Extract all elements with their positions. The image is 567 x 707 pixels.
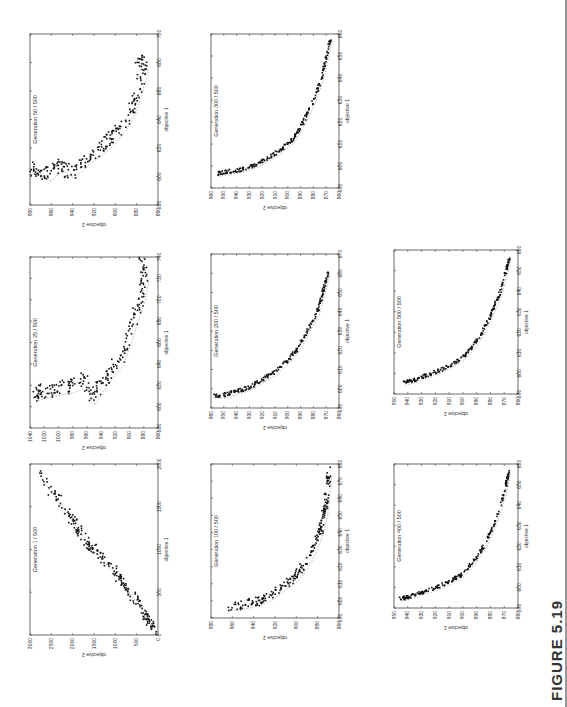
svg-text:objective 1: objective 1: [344, 319, 350, 343]
svg-text:1040: 1040: [27, 431, 33, 442]
svg-text:650: 650: [337, 288, 343, 297]
svg-text:880: 880: [487, 397, 493, 406]
plot-generation-500: Generation 500 / 50086087088089090091092…: [386, 248, 532, 416]
svg-text:660: 660: [156, 87, 162, 96]
svg-text:600: 600: [516, 583, 522, 592]
svg-text:910: 910: [446, 397, 452, 406]
svg-text:600: 600: [156, 172, 162, 181]
svg-text:590: 590: [516, 390, 522, 399]
svg-text:620: 620: [156, 144, 162, 153]
svg-text:880: 880: [133, 208, 139, 217]
svg-text:940: 940: [233, 411, 239, 420]
svg-text:660: 660: [156, 338, 162, 347]
svg-text:900: 900: [284, 411, 290, 420]
svg-text:630: 630: [337, 96, 343, 105]
svg-text:720: 720: [156, 274, 162, 283]
svg-text:920: 920: [259, 191, 265, 200]
svg-text:700: 700: [156, 30, 162, 39]
svg-text:620: 620: [516, 542, 522, 551]
svg-text:2000: 2000: [69, 638, 75, 649]
svg-text:620: 620: [516, 328, 522, 337]
svg-text:620: 620: [337, 118, 343, 127]
svg-text:920: 920: [432, 611, 438, 620]
svg-text:650: 650: [516, 480, 522, 489]
plot-title: Generation 25 / 500: [32, 318, 38, 367]
svg-text:600: 600: [337, 384, 343, 393]
svg-text:890: 890: [297, 411, 303, 420]
svg-text:objective 2: objective 2: [444, 411, 468, 417]
plot-title: Generation 100 / 500: [213, 515, 219, 567]
svg-text:objective 1: objective 1: [523, 310, 529, 334]
svg-text:940: 940: [404, 397, 410, 406]
plot-generation-25: Generation 25 / 500860880900920940960980…: [22, 255, 172, 450]
plot-generation-200: Generation 200 / 50086087088089090091092…: [203, 252, 353, 430]
svg-text:660: 660: [516, 460, 522, 469]
svg-text:500: 500: [133, 638, 139, 647]
svg-text:670: 670: [337, 250, 343, 259]
svg-text:640: 640: [337, 307, 343, 316]
svg-text:870: 870: [501, 611, 507, 620]
svg-text:3000: 3000: [27, 638, 33, 649]
svg-text:1000: 1000: [156, 544, 162, 555]
plot-title: Generation 300 / 500: [213, 85, 219, 137]
svg-text:950: 950: [220, 411, 226, 420]
plot-generation-50: Generation 50 / 500860880900920940960980…: [22, 32, 172, 227]
plot-title: Generation 200 / 500: [213, 305, 219, 357]
svg-text:880: 880: [310, 411, 316, 420]
svg-text:0: 0: [155, 638, 161, 641]
plot-title: Generation 400 / 500: [396, 510, 402, 562]
svg-text:640: 640: [337, 74, 343, 83]
svg-text:590: 590: [337, 404, 343, 413]
svg-text:890: 890: [473, 611, 479, 620]
svg-text:objective 1: objective 1: [163, 537, 169, 561]
svg-text:objective 2: objective 2: [82, 652, 106, 658]
svg-text:910: 910: [446, 611, 452, 620]
plot-title: Generation 50 / 500: [32, 95, 38, 144]
svg-text:940: 940: [69, 208, 75, 217]
svg-text:880: 880: [487, 611, 493, 620]
svg-text:objective 2: objective 2: [82, 222, 106, 228]
svg-text:1020: 1020: [41, 431, 47, 442]
svg-text:objective 1: objective 1: [163, 330, 169, 354]
svg-text:930: 930: [246, 191, 252, 200]
svg-text:620: 620: [337, 562, 343, 571]
svg-text:objective 1: objective 1: [163, 107, 169, 131]
svg-text:590: 590: [337, 614, 343, 623]
svg-text:660: 660: [516, 246, 522, 255]
svg-text:960: 960: [229, 621, 235, 630]
svg-text:610: 610: [337, 365, 343, 374]
svg-text:500: 500: [156, 588, 162, 597]
svg-text:1500: 1500: [91, 638, 97, 649]
plot-generation-100: Generation 100 / 50086088090092094096098…: [203, 462, 353, 640]
svg-text:940: 940: [250, 621, 256, 630]
svg-text:objective 2: objective 2: [263, 205, 287, 211]
svg-text:910: 910: [272, 411, 278, 420]
svg-text:920: 920: [259, 411, 265, 420]
svg-text:740: 740: [156, 253, 162, 262]
svg-text:650: 650: [337, 52, 343, 61]
svg-text:920: 920: [91, 208, 97, 217]
plot-generation-400: Generation 400 / 50086087088089090091092…: [386, 462, 532, 630]
svg-text:950: 950: [220, 191, 226, 200]
svg-text:680: 680: [156, 317, 162, 326]
svg-text:870: 870: [323, 411, 329, 420]
svg-text:680: 680: [156, 58, 162, 67]
svg-text:600: 600: [337, 596, 343, 605]
svg-text:600: 600: [516, 369, 522, 378]
svg-text:610: 610: [516, 348, 522, 357]
svg-text:610: 610: [337, 140, 343, 149]
svg-text:650: 650: [337, 511, 343, 520]
svg-text:960: 960: [83, 431, 89, 440]
plot-generation-1: Generation 1 / 5000500100015002000250030…: [22, 462, 172, 657]
svg-text:920: 920: [272, 621, 278, 630]
svg-text:930: 930: [418, 397, 424, 406]
svg-text:880: 880: [310, 191, 316, 200]
svg-text:940: 940: [98, 431, 104, 440]
svg-text:objective 2: objective 2: [263, 635, 287, 641]
svg-text:1500: 1500: [156, 501, 162, 512]
svg-text:920: 920: [432, 397, 438, 406]
svg-text:870: 870: [323, 191, 329, 200]
svg-text:950: 950: [391, 611, 397, 620]
plot-title: Generation 1 / 500: [32, 527, 38, 573]
svg-text:920: 920: [112, 431, 118, 440]
